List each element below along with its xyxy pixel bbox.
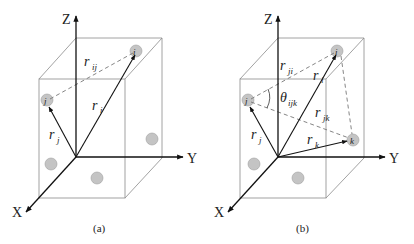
svg-text:r: r (315, 105, 321, 120)
svg-text:jk: jk (322, 113, 331, 123)
axes-a (26, 16, 183, 212)
z-axis-label: Z (264, 12, 273, 27)
atom (292, 172, 304, 184)
vector-r-k (278, 141, 347, 157)
svg-text:r: r (251, 127, 257, 142)
atoms-b (242, 45, 359, 184)
label-theta-ijk: θ ijk (280, 90, 298, 108)
angle-arc-theta-ijk (267, 89, 270, 108)
atom (45, 158, 57, 170)
label-r-i: r i (92, 98, 103, 115)
atom (248, 158, 260, 170)
panel-b: Z Y X i j k r ji r i θ ijk r jk r j r k … (214, 12, 399, 235)
label-r-ij: r ij (84, 54, 98, 72)
z-axis-label: Z (62, 12, 71, 27)
x-axis-label: X (214, 205, 224, 220)
svg-text:j: j (56, 135, 60, 145)
svg-text:k: k (315, 140, 320, 150)
label-r-k: r k (307, 132, 320, 150)
label-r-jk: r jk (315, 105, 331, 123)
svg-text:r: r (313, 68, 319, 83)
svg-text:ij: ij (92, 62, 98, 72)
panel-a: Z Y X i j r ij r i r j (a) (12, 12, 197, 235)
edge-ik (341, 56, 352, 134)
label-r-j: r j (49, 127, 60, 145)
svg-text:r: r (92, 98, 98, 113)
svg-text:r: r (307, 132, 313, 147)
svg-text:i: i (100, 105, 103, 115)
y-axis-label: Y (389, 151, 399, 166)
atom (91, 172, 103, 184)
atom-j (242, 94, 254, 106)
svg-text:ijk: ijk (288, 98, 298, 108)
diagram-canvas: Z Y X i j r ij r i r j (a) (0, 0, 414, 244)
svg-text:r: r (84, 54, 90, 69)
atom-j-label: j (43, 96, 47, 106)
vector-r-ij (50, 53, 133, 99)
label-r-ji: r ji (280, 58, 294, 76)
atom (146, 133, 158, 145)
svg-text:j: j (258, 135, 262, 145)
atom-j (41, 94, 53, 106)
x-axis-label: X (12, 205, 22, 220)
y-axis-label: Y (187, 151, 197, 166)
svg-text:r: r (280, 58, 286, 73)
label-r-i: r i (313, 68, 324, 85)
vector-r-jk (251, 102, 349, 138)
axes-b (228, 16, 385, 212)
caption-a: (a) (93, 222, 106, 235)
vector-r-i (76, 55, 135, 157)
label-r-j: r j (251, 127, 262, 145)
atom-j-label: j (244, 96, 248, 106)
svg-text:ji: ji (287, 66, 294, 76)
atom-i (130, 45, 142, 57)
svg-text:θ: θ (280, 90, 287, 105)
caption-b: (b) (296, 222, 309, 235)
svg-text:r: r (49, 127, 55, 142)
